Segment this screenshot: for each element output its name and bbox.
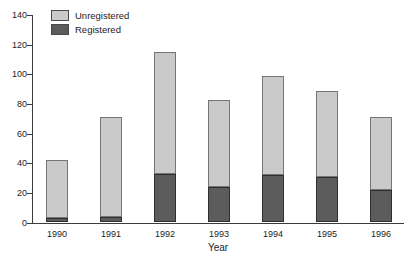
x-tick-label-1991: 1991 <box>84 229 138 239</box>
plot-area: 0204060801001201401990199119921993199419… <box>0 0 412 259</box>
bar-segment-unregistered-1992 <box>154 52 176 174</box>
bar-segment-unregistered-1990 <box>46 160 68 218</box>
y-tick <box>27 163 32 164</box>
bar-segment-registered-1996 <box>370 190 392 223</box>
x-tick-label-1994: 1994 <box>246 229 300 239</box>
y-tick-label: 120 <box>1 40 27 50</box>
bar-segment-registered-1995 <box>316 177 338 223</box>
x-tick-label-1993: 1993 <box>192 229 246 239</box>
bar-segment-registered-1991 <box>100 217 122 223</box>
y-tick <box>27 193 32 194</box>
bar-segment-registered-1993 <box>208 187 230 223</box>
y-tick-label: 100 <box>1 69 27 79</box>
x-tick-label-1995: 1995 <box>300 229 354 239</box>
bar-segment-unregistered-1993 <box>208 100 230 187</box>
y-tick-label: 80 <box>1 99 27 109</box>
y-tick <box>27 134 32 135</box>
bar-segment-registered-1990 <box>46 218 68 222</box>
y-axis-line <box>32 15 33 224</box>
bar-segment-registered-1994 <box>262 175 284 222</box>
y-tick-label: 40 <box>1 158 27 168</box>
y-tick <box>27 104 32 105</box>
bar-segment-unregistered-1996 <box>370 117 392 190</box>
bar-segment-unregistered-1991 <box>100 117 122 216</box>
stacked-bar-chart: UnregisteredRegistered 02040608010012014… <box>0 0 412 259</box>
y-tick <box>27 223 32 224</box>
x-tick-label-1992: 1992 <box>138 229 192 239</box>
bar-segment-registered-1992 <box>154 174 176 223</box>
y-tick-label: 0 <box>1 218 27 228</box>
y-tick-label: 60 <box>1 129 27 139</box>
y-tick-label: 140 <box>1 10 27 20</box>
x-axis-line <box>32 223 404 224</box>
y-tick-label: 20 <box>1 188 27 198</box>
bar-segment-unregistered-1994 <box>262 76 284 175</box>
y-tick <box>27 45 32 46</box>
y-tick <box>27 74 32 75</box>
x-tick-label-1996: 1996 <box>354 229 408 239</box>
x-tick-label-1990: 1990 <box>30 229 84 239</box>
bar-segment-unregistered-1995 <box>316 91 338 177</box>
y-tick <box>27 15 32 16</box>
x-axis-title: Year <box>188 242 248 253</box>
